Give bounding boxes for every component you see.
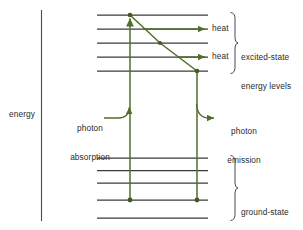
state-dot (128, 198, 133, 203)
excited-state-group-label-line2: energy levels (241, 82, 291, 92)
state-dot (128, 13, 133, 18)
state-dot (195, 69, 200, 74)
energy-axis-label: energy (9, 110, 35, 120)
ground-state-group-label: ground-state energy levels (241, 188, 291, 230)
excited-state-group-label: excited-state energy levels (241, 33, 291, 111)
excited-state-levels (97, 15, 208, 71)
ground-state-group-label-line1: ground-state (241, 208, 291, 218)
excited-state-group-label-line1: excited-state (241, 53, 291, 63)
state-dot (195, 198, 200, 203)
state-dots (128, 13, 200, 203)
brace-excited-path (231, 13, 239, 74)
photon-emission-label: photon emission (218, 107, 270, 185)
photon-absorption-label-line1: photon (64, 124, 116, 134)
photon-absorption-label-line2: absorption (64, 153, 116, 163)
excited-state-brace (231, 13, 239, 74)
photon-emission-label-line1: photon (218, 127, 270, 137)
photon-absorption-label: photon absorption (64, 104, 116, 182)
heat-label-lower: heat (212, 52, 229, 62)
energy-level-diagram: energy heat heat photon absorption photo… (0, 0, 303, 230)
photon-emission-leader (197, 104, 215, 118)
state-dot (158, 41, 162, 45)
photon-emission-label-line2: emission (218, 156, 270, 166)
heat-label-upper: heat (212, 24, 229, 34)
emission-leader-curve (197, 104, 215, 118)
